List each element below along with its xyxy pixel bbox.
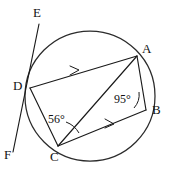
vertex-label-B: B xyxy=(152,103,161,116)
vertex-label-C: C xyxy=(50,150,59,163)
vertex-label-E: E xyxy=(33,6,41,19)
vertex-label-D: D xyxy=(13,79,22,92)
vertex-label-F: F xyxy=(4,148,11,161)
circumscribed-circle xyxy=(25,31,155,161)
segment-DA xyxy=(30,56,137,88)
angle-arc-at-B xyxy=(134,92,139,108)
geometry-figure: A B C D E F 56° 95° xyxy=(0,0,172,172)
segment-CB xyxy=(58,110,146,146)
angle-label-at-C: 56° xyxy=(48,113,65,125)
angle-label-at-B: 95° xyxy=(114,93,131,105)
vertex-label-A: A xyxy=(142,42,151,55)
geometry-canvas xyxy=(0,0,172,172)
